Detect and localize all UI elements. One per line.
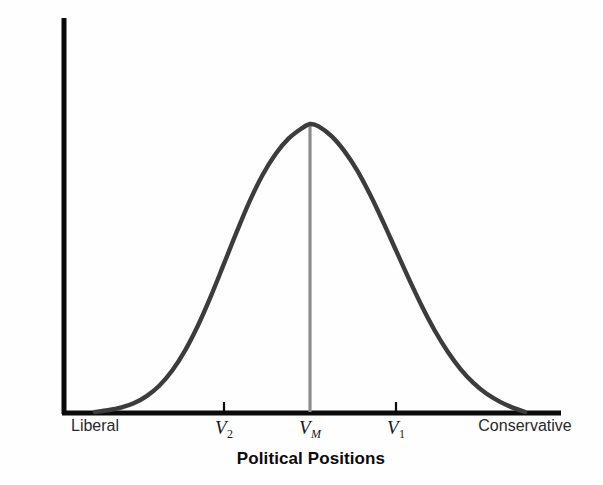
x-label-v2: V2 — [215, 417, 233, 442]
x-label-liberal: Liberal — [71, 417, 119, 435]
v1-subscript: 1 — [399, 427, 405, 441]
vm-symbol: V — [299, 417, 311, 438]
x-axis-title: Political Positions — [62, 449, 560, 469]
x-label-vm: VM — [299, 417, 321, 442]
chart-figure: Number of Voters Political Positions Lib… — [0, 0, 603, 485]
bell-curve-plot — [0, 0, 603, 485]
vm-subscript: M — [311, 427, 321, 441]
x-label-conservative: Conservative — [478, 417, 571, 435]
v2-subscript: 2 — [227, 427, 233, 441]
v1-symbol: V — [387, 417, 399, 438]
v2-symbol: V — [215, 417, 227, 438]
x-label-v1: V1 — [387, 417, 405, 442]
